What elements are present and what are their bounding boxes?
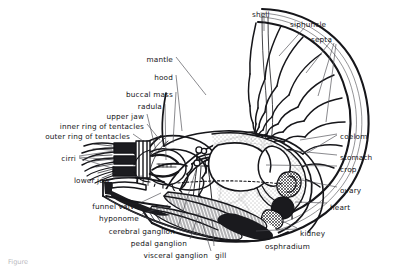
label-mantle: mantle xyxy=(147,56,173,64)
label-osphradium: osphradium xyxy=(265,243,310,251)
label-hood: hood xyxy=(154,74,173,82)
label-inner-ring-of-tentacles: inner ring of tentacles xyxy=(60,123,144,131)
label-crop: crop xyxy=(340,166,357,174)
cerebral-ganglion xyxy=(196,147,207,154)
label-kidney: kidney xyxy=(300,230,325,238)
label-radula: radula xyxy=(138,103,162,111)
label-visceral-ganglion: visceral ganglion xyxy=(143,252,208,260)
label-gill: gill xyxy=(215,252,226,260)
label-lower-jaw: lower jaw xyxy=(74,177,110,185)
label-pedal-ganglion: pedal ganglion xyxy=(131,240,187,248)
label-septa: septa xyxy=(311,36,332,44)
label-heart: heart xyxy=(330,204,350,212)
label-buccal-mass: buccal mass xyxy=(126,91,173,99)
label-ovary: ovary xyxy=(340,187,361,195)
label-funnel-valve: funnel valve xyxy=(92,203,139,211)
lower-jaw xyxy=(150,172,178,176)
label-coelom: coelom xyxy=(340,133,367,141)
pedal-ganglion xyxy=(194,160,200,166)
nautilus-anatomy-figure: shellsiphuncleseptamantlehoodbuccal mass… xyxy=(0,0,393,267)
label-siphuncle: siphuncle xyxy=(290,21,326,29)
label-shell: shell xyxy=(252,11,270,19)
label-stomach: stomach xyxy=(340,154,372,162)
upper-jaw xyxy=(152,155,178,163)
tentacle-sheath xyxy=(113,141,150,178)
label-outer-ring-of-tentacles: outer ring of tentacles xyxy=(45,133,130,141)
label-upper-jaw: upper jaw xyxy=(106,113,144,121)
label-cirri: cirri xyxy=(61,155,76,163)
figure-caption: Figure xyxy=(8,258,28,266)
label-cerebral-ganglion: cerebral ganglion xyxy=(109,228,175,236)
label-hyponome: hyponome xyxy=(99,215,139,223)
